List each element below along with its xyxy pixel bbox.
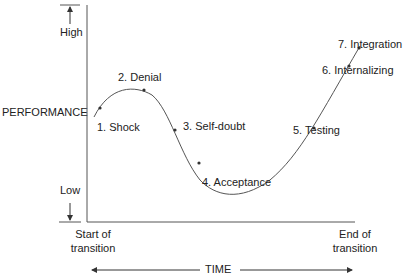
stage-3-label: 3. Self-doubt	[183, 120, 245, 132]
stage-6-label: 6. Internalizing	[322, 64, 394, 76]
y-axis-label: PERFORMANCE	[2, 106, 88, 118]
stage-5-label: 5. Testing	[293, 124, 340, 136]
x-tick-start: Start of transition	[64, 227, 122, 255]
x-tick-end: End of transition	[325, 227, 385, 255]
stage-7-label: 7. Integration	[338, 38, 402, 50]
y-tick-low: Low	[60, 184, 80, 196]
stage-4-label: 4. Acceptance	[202, 176, 271, 188]
stage-1-label: 1. Shock	[97, 121, 140, 133]
y-tick-high: High	[60, 26, 83, 38]
stage-2-label: 2. Denial	[118, 71, 161, 83]
x-axis-label: TIME	[205, 263, 231, 275]
